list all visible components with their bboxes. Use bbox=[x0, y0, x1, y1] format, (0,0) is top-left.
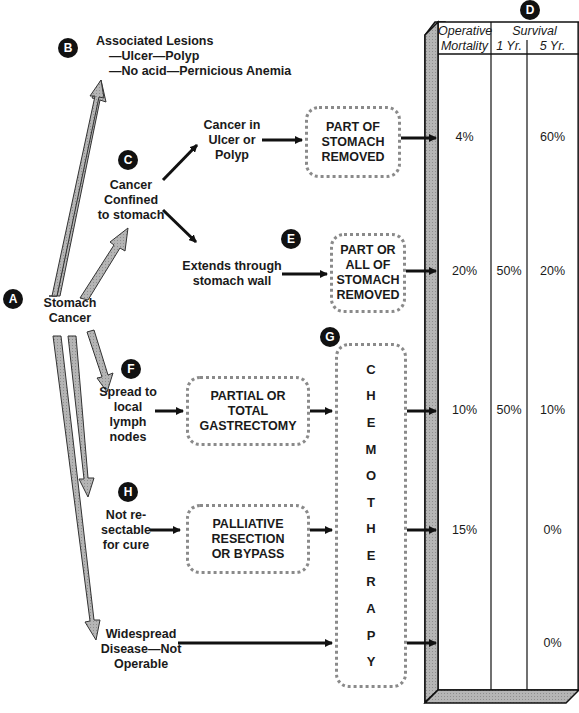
table-cell-1yr: 50% bbox=[491, 264, 527, 278]
table-header-operative-mortality: Operative Mortality bbox=[438, 24, 491, 54]
node-cancer-in-ulcer-polyp: Cancer in Ulcer or Polyp bbox=[200, 118, 264, 163]
table-cell-mortality: 20% bbox=[438, 264, 491, 278]
table-cell-5yr: 20% bbox=[527, 264, 578, 278]
treatment-part-of-stomach-removed: PART OF STOMACH REMOVED bbox=[305, 106, 401, 178]
badge-c: C bbox=[118, 150, 138, 170]
node-stomach-cancer: Stomach Cancer bbox=[40, 296, 100, 326]
diagram-graphics bbox=[0, 0, 579, 713]
table-cell-5yr: 10% bbox=[527, 403, 578, 417]
badge-f: F bbox=[121, 359, 141, 379]
outcome-table-frame bbox=[425, 22, 579, 703]
treatment-part-or-all-removed: PART OR ALL OF STOMACH REMOVED bbox=[330, 233, 406, 313]
treatment-chemotherapy: C H E M O T H E R A P Y bbox=[335, 343, 407, 688]
table-cell-mortality: 4% bbox=[438, 130, 491, 144]
badge-d: D bbox=[520, 0, 540, 20]
table-cell-mortality: 15% bbox=[438, 523, 491, 537]
table-header-survival: Survival bbox=[491, 24, 578, 39]
treatment-palliative: PALLIATIVE RESECTION OR BYPASS bbox=[186, 504, 310, 574]
table-header-5yr: 5 Yr. bbox=[527, 39, 578, 54]
node-not-resectable: Not re- sectable for cure bbox=[98, 508, 154, 553]
node-associated-lesions: Associated Lesions —Ulcer—Polyp —No acid… bbox=[96, 34, 316, 79]
badge-b: B bbox=[58, 38, 78, 58]
table-header-1yr: 1 Yr. bbox=[491, 39, 527, 54]
badge-h: H bbox=[118, 482, 138, 502]
gray-arrows bbox=[49, 80, 128, 640]
table-cell-5yr: 0% bbox=[527, 523, 578, 537]
badge-a: A bbox=[3, 289, 23, 309]
table-cell-mortality: 10% bbox=[438, 403, 491, 417]
node-spread-lymph-nodes: Spread to local lymph nodes bbox=[98, 385, 158, 445]
treatment-gastrectomy: PARTIAL OR TOTAL GASTRECTOMY bbox=[186, 376, 310, 446]
table-cell-1yr: 50% bbox=[491, 403, 527, 417]
node-widespread-disease: Widespread Disease—Not Operable bbox=[100, 627, 182, 672]
node-cancer-confined: Cancer Confined to stomach bbox=[96, 178, 166, 223]
badge-e: E bbox=[281, 229, 301, 249]
node-extends-through-wall: Extends through stomach wall bbox=[180, 259, 284, 289]
table-cell-5yr: 0% bbox=[527, 636, 578, 650]
table-cell-5yr: 60% bbox=[527, 130, 578, 144]
badge-g: G bbox=[320, 327, 340, 347]
